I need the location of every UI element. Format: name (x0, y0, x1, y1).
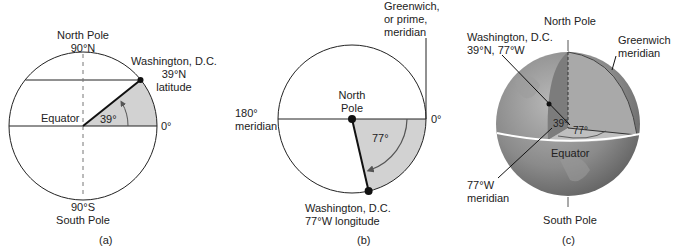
south-pole-label: South Pole (530, 214, 610, 227)
longitude-wedge (352, 119, 426, 191)
dc-coords-label: 39°N, 77°W (467, 44, 525, 57)
south-lat-label: 90°S (48, 201, 118, 214)
caption-c: (c) (562, 234, 575, 246)
greenwich-label-2: meridian (618, 47, 660, 60)
dc-lon-label: 77°W longitude (305, 215, 380, 228)
caption-a: (a) (99, 234, 112, 246)
north-lat-label: 90°N (48, 42, 118, 55)
greenwich-label-1: Greenwich (618, 34, 671, 47)
lon-angle-label: 77° (573, 124, 588, 137)
zero-degree-label: 0° (161, 120, 172, 133)
angle-label: 77° (372, 132, 389, 145)
zero-degree-label: 0° (431, 113, 442, 126)
dc-name-label: Washington, D.C. (467, 31, 553, 44)
dc-point (365, 187, 373, 195)
north-pole-label: North Pole (535, 15, 605, 28)
dc-point (547, 102, 552, 107)
north-pole-label: North Pole (48, 29, 118, 42)
dc-name-label: Washington, D.C. (124, 55, 224, 68)
meridian-label-1: 77°W (467, 179, 494, 192)
meridian-180-label-2: meridian (235, 120, 277, 133)
latitude-word-label: latitude (124, 81, 224, 94)
north-pole-label-1: North (327, 89, 377, 102)
greenwich-label-3: meridian (384, 26, 426, 39)
caption-b: (b) (357, 234, 370, 246)
angle-label: 39° (100, 113, 117, 126)
greenwich-label-1: Greenwich, (384, 0, 440, 13)
dc-lat-label: 39°N (124, 68, 224, 81)
meridian-label-2: meridian (467, 192, 509, 205)
dc-name-label: Washington, D.C. (305, 202, 391, 215)
equator-label: Equator (551, 147, 590, 160)
south-pole-label: South Pole (48, 214, 118, 227)
panel-b-longitude (278, 38, 426, 195)
lat-angle-label: 39° (553, 117, 568, 130)
greenwich-leader (612, 56, 616, 70)
north-pole-point (348, 115, 356, 123)
greenwich-label-2: or prime, (384, 13, 427, 26)
equator-label: Equator (41, 112, 80, 125)
meridian-180-label-1: 180° (235, 107, 258, 120)
north-pole-label-2: Pole (327, 102, 377, 115)
